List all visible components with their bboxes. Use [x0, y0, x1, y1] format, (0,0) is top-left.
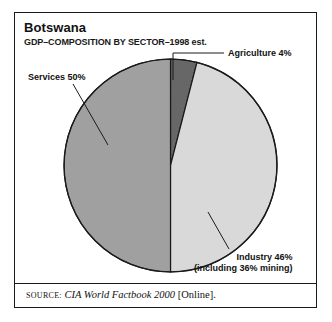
chart-figure: Botswana GDP–COMPOSITION BY SECTOR–1998 …	[0, 0, 332, 322]
pie-svg	[63, 58, 278, 273]
pie-chart	[63, 58, 278, 273]
slice-label-industry-line1: Industry 46%	[236, 252, 292, 262]
slice-label-agriculture: Agriculture 4%	[228, 48, 292, 59]
page-title: Botswana	[24, 20, 86, 35]
source-title: CIA World Factbook 2000	[65, 289, 176, 300]
source-suffix: [Online].	[178, 289, 216, 300]
pie-slice-services	[64, 59, 171, 272]
slice-label-industry: Industry 46% (including 36% mining)	[194, 252, 293, 274]
source-prefix: SOURCE:	[26, 291, 62, 300]
source-divider	[15, 283, 316, 284]
source-note: SOURCE: CIA World Factbook 2000 [Online]…	[26, 289, 216, 300]
slice-label-services: Services 50%	[28, 72, 86, 83]
chart-subtitle: GDP–COMPOSITION BY SECTOR–1998 est.	[24, 37, 207, 47]
slice-label-industry-line2: (including 36% mining)	[194, 263, 293, 274]
